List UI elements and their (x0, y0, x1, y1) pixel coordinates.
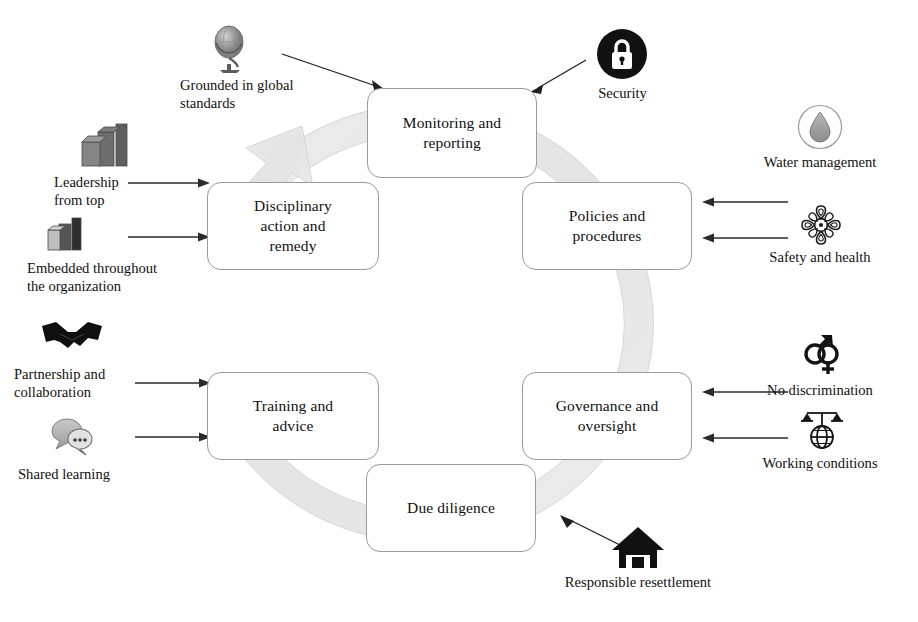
node-governance-and-oversight[interactable]: Governance and oversight (522, 372, 692, 460)
item-label: Embedded throughout the organization (27, 260, 207, 296)
diagram-canvas: Monitoring and reporting Policies and pr… (0, 0, 918, 622)
node-label: Monitoring and reporting (403, 113, 501, 153)
connector-embedded-to-disciplinary (128, 231, 212, 243)
medallion-icon (799, 203, 843, 247)
speech-bubbles-icon (46, 415, 102, 461)
item-label: Working conditions (745, 455, 895, 473)
node-disciplinary-action-and-remedy[interactable]: Disciplinary action and remedy (207, 182, 379, 270)
item-label: Partnership and collaboration (14, 366, 179, 402)
building-blocks-small-icon (44, 212, 90, 254)
water-drop-icon (797, 104, 843, 150)
connector-water-to-policies (700, 196, 790, 208)
node-monitoring-and-reporting[interactable]: Monitoring and reporting (367, 88, 537, 178)
node-label: Governance and oversight (556, 396, 659, 436)
item-label: Safety and health (745, 249, 895, 267)
node-label: Disciplinary action and remedy (254, 196, 332, 255)
item-label: Grounded in global standards (180, 77, 360, 113)
item-label: Water management (745, 154, 895, 172)
house-icon (610, 524, 666, 570)
handshake-icon (40, 318, 104, 360)
item-label: No discrimination (745, 382, 895, 400)
gender-symbols-icon (795, 330, 847, 380)
node-policies-and-procedures[interactable]: Policies and procedures (522, 182, 692, 270)
item-label: Shared learning (18, 466, 163, 484)
scales-globe-icon (799, 405, 845, 455)
node-due-diligence[interactable]: Due diligence (366, 464, 536, 552)
node-label: Due diligence (407, 498, 495, 518)
node-label: Policies and procedures (569, 206, 646, 246)
connector-safety-to-policies (700, 232, 790, 244)
node-training-and-advice[interactable]: Training and advice (207, 372, 379, 460)
padlock-icon (596, 28, 648, 80)
globe-icon (208, 24, 252, 74)
item-label: Responsible resettlement (548, 574, 728, 592)
node-label: Training and advice (253, 396, 333, 436)
connector-working-to-governance (700, 432, 790, 444)
building-blocks-icon (76, 118, 134, 170)
connector-shared-to-training (135, 431, 213, 443)
item-label: Security (575, 85, 670, 103)
item-label: Leadership from top (54, 174, 174, 210)
